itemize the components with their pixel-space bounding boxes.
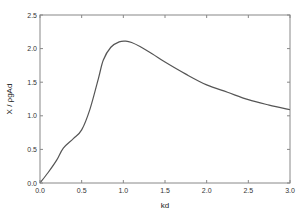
y-axis-label: X / ρgAd bbox=[5, 84, 14, 115]
x-tick-label: 1.5 bbox=[160, 187, 170, 194]
line-chart: 0.00.51.01.52.02.53.0 0.00.51.01.52.02.5… bbox=[0, 0, 303, 220]
plot-area bbox=[40, 15, 290, 183]
x-tick-label: 3.0 bbox=[285, 187, 295, 194]
x-axis: 0.00.51.01.52.02.53.0 bbox=[35, 15, 295, 194]
y-tick-label: 1.0 bbox=[27, 112, 37, 119]
x-tick-label: 2.0 bbox=[202, 187, 212, 194]
data-line bbox=[40, 41, 290, 183]
y-tick-label: 0.0 bbox=[27, 180, 37, 187]
x-tick-label: 2.5 bbox=[243, 187, 253, 194]
x-tick-label: 1.0 bbox=[118, 187, 128, 194]
y-tick-label: 0.5 bbox=[27, 146, 37, 153]
x-tick-label: 0.5 bbox=[77, 187, 87, 194]
x-tick-label: 0.0 bbox=[35, 187, 45, 194]
y-axis: 0.00.51.01.52.02.5 bbox=[27, 12, 290, 187]
x-axis-label: kd bbox=[161, 201, 169, 210]
plot-frame bbox=[40, 15, 290, 183]
y-tick-label: 2.0 bbox=[27, 45, 37, 52]
y-tick-label: 1.5 bbox=[27, 79, 37, 86]
y-tick-label: 2.5 bbox=[27, 12, 37, 19]
